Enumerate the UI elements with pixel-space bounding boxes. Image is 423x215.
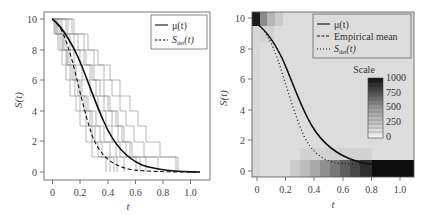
colorbar-tick-0: 0 [386,131,391,142]
left-xtick-0.2: 0.2 [74,187,87,198]
right-legend: μ(t) Empirical mean Sdet(t) [313,14,411,58]
left-ytick-0: 0 [32,167,37,178]
right-xtick-1.0: 1.0 [394,184,407,195]
left-ytick-10: 10 [27,14,37,25]
left-ytick-4: 4 [32,106,37,117]
colorbar-tick-250: 250 [386,116,401,127]
right-xtick-0.4: 0.4 [308,184,321,195]
left-ytick-6: 6 [32,75,37,86]
colorbar-title: Scale [353,64,375,75]
colorbar-tick-1000: 1000 [386,72,406,83]
right-x-label: t [331,198,335,210]
left-y-axis [40,19,44,172]
right-legend-empirical-mean: Empirical mean [334,31,398,42]
left-chart: 0 2 4 6 8 10 0 0.2 0.4 0.6 0.8 1.0 t S(t… [12,12,210,212]
right-xtick-0.2: 0.2 [279,184,292,195]
right-ytick-8: 8 [240,44,245,55]
right-ytick-6: 6 [240,74,245,85]
left-legend: μ(t) Sdet(t) [151,15,207,49]
left-xtick-0: 0 [50,187,55,198]
colorbar-tick-500: 500 [386,101,401,112]
right-ytick-4: 4 [240,105,245,116]
left-xtick-0.4: 0.4 [102,187,115,198]
left-ytick-2: 2 [32,136,37,147]
right-ytick-2: 2 [240,135,245,146]
right-legend-mu: μ(t) [334,19,349,31]
left-legend-mu: μ(t) [172,20,187,32]
right-xtick-0: 0 [255,184,260,195]
right-xtick-0.6: 0.6 [337,184,350,195]
left-x-axis [53,180,191,184]
right-y-label: S(t) [217,90,230,106]
left-xtick-0.6: 0.6 [129,187,142,198]
right-y-axis [248,18,252,171]
right-ytick-10: 10 [235,13,245,24]
colorbar-tick-750: 750 [386,87,401,98]
right-ytick-0: 0 [240,166,245,177]
right-chart: 0 2 4 6 8 10 0 0.2 0.4 0.6 0.8 1.0 t S(t… [217,12,414,210]
left-y-label: S(t) [12,92,25,108]
left-x-label: t [126,200,130,212]
figure: 0 2 4 6 8 10 0 0.2 0.4 0.6 0.8 1.0 t S(t… [0,0,423,215]
left-ytick-8: 8 [32,45,37,56]
left-xtick-0.8: 0.8 [157,187,170,198]
left-xtick-1.0: 1.0 [184,187,197,198]
right-xtick-0.8: 0.8 [365,184,378,195]
right-x-axis [257,177,400,181]
